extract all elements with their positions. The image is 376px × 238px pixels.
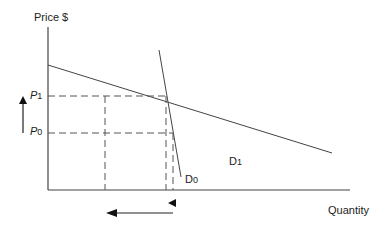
demand-curve-d1 <box>48 65 332 153</box>
price-label-p1: P1 <box>30 89 42 101</box>
price-increase-arrow-icon <box>19 96 27 133</box>
y-axis-label: Price $ <box>34 11 68 23</box>
small-left-triangle-icon <box>168 199 176 207</box>
x-axis-label: Quantity <box>328 204 369 216</box>
quantity-decrease-arrow-icon <box>106 209 173 217</box>
curve-label-d0: D0 <box>185 173 198 185</box>
demand-diagram <box>0 0 376 238</box>
guide-lines <box>48 96 173 190</box>
demand-curve-d0 <box>159 50 181 177</box>
curve-label-d1: D1 <box>229 155 242 167</box>
price-label-p0: P0 <box>30 125 42 137</box>
